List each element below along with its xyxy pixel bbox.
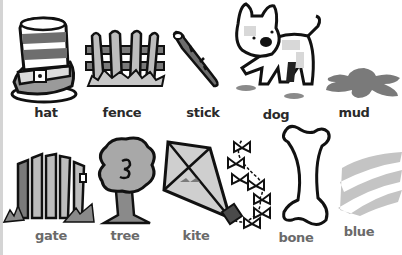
word-label: kite <box>183 228 210 243</box>
word-card-mud: mud <box>324 66 402 106</box>
word-label: stick <box>186 105 219 120</box>
word-label: hat <box>34 105 57 120</box>
fence-icon <box>84 28 168 88</box>
page-edge-line <box>0 0 3 255</box>
word-label: mud <box>338 105 369 120</box>
word-label: blue <box>344 224 375 239</box>
mud-puddle-icon <box>324 66 402 100</box>
word-card-gate: gate <box>4 152 96 246</box>
tree-icon <box>96 135 158 225</box>
word-label: dog <box>263 107 290 122</box>
top-hat-icon <box>8 12 80 102</box>
blue-scribble-icon <box>336 148 402 218</box>
word-label: gate <box>35 228 67 243</box>
word-card-kite: kite <box>162 138 280 246</box>
bone-icon <box>278 124 338 228</box>
word-card-dog: dog <box>232 2 324 103</box>
word-card-blue: blue <box>336 148 402 246</box>
word-label: fence <box>103 105 142 120</box>
word-card-tree: tree <box>96 135 158 246</box>
stick-icon <box>170 30 230 90</box>
word-card-hat: hat <box>8 12 80 102</box>
word-card-stick: stick <box>170 30 230 103</box>
gate-icon <box>4 152 96 224</box>
kite-icon <box>162 138 280 226</box>
dog-icon <box>232 2 324 94</box>
word-label: tree <box>110 228 139 243</box>
word-label: bone <box>278 230 313 245</box>
word-card-fence: fence <box>84 28 168 103</box>
word-card-bone: bone <box>278 124 338 246</box>
